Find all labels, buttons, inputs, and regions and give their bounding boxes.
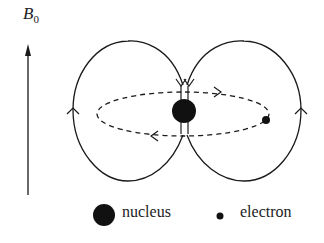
b0-label: B0 (23, 4, 39, 25)
electron (262, 116, 270, 124)
b0-arrow (25, 44, 31, 195)
b0-subscript: 0 (33, 13, 39, 25)
field-line-left (73, 41, 183, 181)
legend-electron-icon (217, 213, 224, 220)
legend-nucleus-label: nucleus (122, 203, 171, 221)
field-line-right (187, 41, 301, 181)
legend-nucleus-icon (93, 204, 115, 226)
legend-electron-label: electron (240, 203, 292, 221)
b0-symbol: B (23, 4, 33, 23)
nucleus (172, 99, 196, 123)
